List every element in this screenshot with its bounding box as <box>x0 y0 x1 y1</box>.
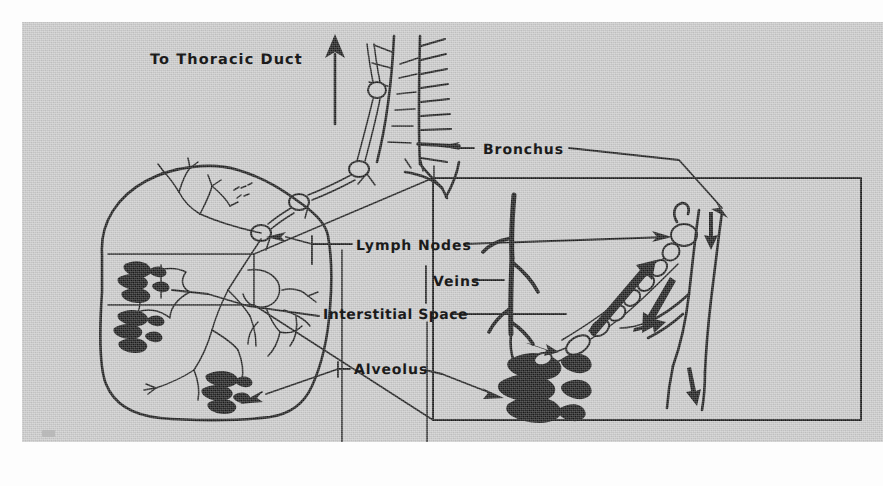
label-veins: Veins <box>433 274 480 290</box>
scanned-figure-area: .ink { fill:none; stroke:#1b1b1b; stroke… <box>22 22 883 442</box>
vein-branch <box>483 195 538 362</box>
label-to-thoracic-duct: To Thoracic Duct <box>150 52 303 68</box>
label-bronchus: Bronchus <box>483 142 564 158</box>
label-alveolus: Alveolus <box>354 362 428 378</box>
lymph-node <box>368 82 386 98</box>
figure-root: .ink { fill:none; stroke:#1b1b1b; stroke… <box>0 0 883 486</box>
magnified-inset-panel <box>433 178 861 420</box>
label-interstitial-space: Interstitial Space <box>323 307 468 323</box>
scan-artifact-smudge <box>42 430 55 437</box>
lymph-node <box>671 224 697 246</box>
diagram-artwork: .ink { fill:none; stroke:#1b1b1b; stroke… <box>22 22 883 442</box>
thoracic-duct-arrow <box>325 34 345 124</box>
trachea-with-cartilage-rings <box>369 36 459 198</box>
label-lymph-nodes: Lymph Nodes <box>356 238 472 254</box>
page-bottom-margin <box>0 442 883 486</box>
